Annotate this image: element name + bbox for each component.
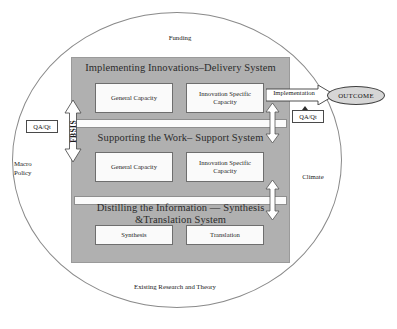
box-support-general-capacity: General Capacity xyxy=(95,152,173,182)
section-title-support: Supporting the Work– Support System xyxy=(74,132,287,144)
box-delivery-innovation-specific-capacity: Innovation Specific Capacity xyxy=(186,83,264,113)
label-macro-policy-line2: Policy xyxy=(14,168,62,177)
diagram-canvas: Funding Climate Macro Policy Existing Re… xyxy=(0,0,397,329)
separator-band-upper xyxy=(74,119,287,128)
double-arrow-delivery-support-icon xyxy=(265,103,280,143)
feedback-label-text: FBSIS xyxy=(69,120,78,143)
section-title-synthesis: Distilling the Information — Synthesis &… xyxy=(74,202,287,226)
box-delivery-general-capacity: General Capacity xyxy=(95,83,173,113)
section-title-delivery: Implementing Innovations–Delivery System xyxy=(74,62,287,74)
outcome-ellipse: OUTCOME xyxy=(327,86,385,105)
qa-qt-box-left: QA/Qt xyxy=(26,120,58,133)
qa-qt-box-right: QA/Qt xyxy=(292,110,324,123)
label-existing-research: Existing Research and Theory xyxy=(95,282,255,291)
feedback-label: FBSIS xyxy=(64,100,82,162)
implementation-label: Implementation xyxy=(268,89,320,96)
label-macro-policy-line1: Macro xyxy=(14,159,62,168)
box-support-innovation-specific-capacity: Innovation Specific Capacity xyxy=(186,152,264,182)
box-translation: Translation xyxy=(186,225,264,245)
label-climate: Climate xyxy=(288,172,338,181)
box-synthesis: Synthesis xyxy=(95,225,173,245)
label-macro-policy: Macro Policy xyxy=(14,159,62,177)
double-arrow-support-synthesis-icon xyxy=(265,180,280,220)
section-title-synthesis-line1: Distilling the Information — Synthesis xyxy=(74,202,287,214)
label-funding: Funding xyxy=(140,33,220,42)
